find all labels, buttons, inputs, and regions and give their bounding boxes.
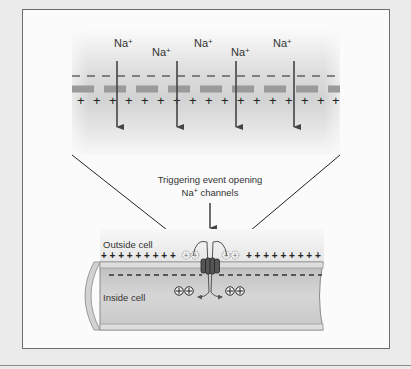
svg-text:+: + bbox=[253, 93, 261, 108]
sodium-channel-icon bbox=[201, 258, 220, 274]
axon-end-cap bbox=[85, 262, 100, 330]
svg-text:+ + + + + + + + +: + + + + + + + + + bbox=[246, 250, 321, 261]
svg-text:+: + bbox=[233, 252, 237, 259]
svg-text:+: + bbox=[221, 93, 229, 108]
triggering-event-annotation: Triggering event opening Na+ channels bbox=[158, 174, 263, 228]
svg-text:+: + bbox=[205, 93, 213, 108]
membrane-diagram: +++ +++ +++ +++ +++ ++ Na+ Na+ Na+ Na+ N… bbox=[0, 0, 411, 369]
svg-text:+: + bbox=[77, 93, 85, 108]
svg-text:+: + bbox=[332, 93, 340, 108]
svg-text:+: + bbox=[269, 93, 277, 108]
annotation-line-2: Na+ channels bbox=[182, 187, 239, 198]
svg-text:+: + bbox=[301, 93, 309, 108]
svg-text:+: + bbox=[184, 252, 188, 259]
svg-text:+: + bbox=[237, 93, 245, 108]
inside-cell-label: Inside cell bbox=[103, 292, 145, 303]
svg-text:+: + bbox=[157, 93, 165, 108]
svg-text:+: + bbox=[109, 93, 117, 108]
top-panel-zoomed-membrane: +++ +++ +++ +++ +++ ++ Na+ Na+ Na+ Na+ N… bbox=[72, 30, 340, 155]
svg-text:+: + bbox=[317, 93, 325, 108]
annotation-line-1: Triggering event opening bbox=[158, 174, 263, 185]
svg-text:+: + bbox=[285, 93, 293, 108]
svg-text:+: + bbox=[125, 93, 133, 108]
svg-text:+ + + + + + + + +: + + + + + + + + + bbox=[101, 250, 176, 261]
outside-cell-label: Outside cell bbox=[103, 239, 153, 250]
svg-text:+: + bbox=[141, 93, 149, 108]
bottom-panel-axon: Outside cell + + + + + + + + + + + + + +… bbox=[85, 229, 324, 330]
svg-text:+: + bbox=[189, 93, 197, 108]
svg-text:+: + bbox=[93, 93, 101, 108]
